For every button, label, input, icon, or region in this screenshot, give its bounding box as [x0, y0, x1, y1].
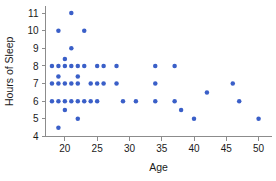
- x-axis-tick-label: 35: [156, 143, 168, 154]
- data-point: [172, 64, 177, 69]
- plot-area: 456789101120253035404550AgeHours of Slee…: [0, 0, 276, 181]
- data-point: [237, 99, 242, 104]
- data-point: [95, 99, 100, 104]
- data-point: [56, 28, 61, 33]
- data-point: [69, 81, 74, 86]
- y-axis-tick-label: 10: [27, 25, 39, 36]
- x-axis-tick-label: 20: [59, 143, 71, 154]
- data-point: [172, 99, 177, 104]
- data-point: [76, 117, 81, 122]
- data-point: [153, 64, 158, 69]
- x-axis-title: Age: [149, 161, 168, 173]
- x-axis-tick-label: 50: [253, 143, 265, 154]
- data-point: [82, 64, 87, 69]
- y-axis-title: Hours of Sleep: [3, 36, 15, 106]
- y-axis-tick-label: 6: [33, 96, 39, 107]
- y-axis-tick-label: 7: [33, 78, 39, 89]
- data-point: [76, 64, 81, 69]
- data-point: [121, 99, 126, 104]
- data-point: [50, 64, 55, 69]
- data-point: [205, 90, 210, 95]
- data-point: [63, 81, 68, 86]
- data-point: [114, 64, 119, 69]
- scatter-chart: 456789101120253035404550AgeHours of Slee…: [0, 0, 276, 181]
- x-axis-tick-label: 45: [221, 143, 233, 154]
- data-point: [63, 64, 68, 69]
- data-point: [153, 99, 158, 104]
- data-point: [192, 117, 197, 122]
- data-point: [56, 81, 61, 86]
- data-point: [56, 64, 61, 69]
- y-axis-tick-label: 11: [28, 8, 39, 19]
- data-point: [134, 99, 139, 104]
- data-point: [88, 99, 93, 104]
- data-point: [82, 28, 87, 33]
- data-point: [101, 64, 106, 69]
- x-axis-tick-label: 40: [188, 143, 200, 154]
- data-point: [88, 81, 93, 86]
- y-axis-tick-label: 9: [33, 43, 39, 54]
- data-point: [50, 81, 55, 86]
- x-axis-tick-label: 25: [92, 143, 104, 154]
- data-point: [69, 11, 74, 16]
- data-point: [63, 99, 68, 104]
- data-point: [69, 64, 74, 69]
- data-point: [82, 99, 87, 104]
- y-axis-tick-label: 4: [33, 131, 39, 142]
- y-axis-tick-label: 5: [33, 113, 39, 124]
- data-point: [69, 46, 74, 51]
- data-point: [101, 81, 106, 86]
- data-point: [56, 125, 61, 129]
- data-point: [114, 81, 119, 86]
- x-axis-tick-label: 30: [124, 143, 136, 154]
- data-point: [50, 99, 55, 104]
- data-point: [63, 108, 68, 113]
- data-point: [69, 99, 74, 104]
- data-point: [256, 117, 261, 122]
- data-point: [56, 74, 61, 79]
- y-axis-tick-label: 8: [33, 61, 39, 72]
- data-point: [231, 81, 236, 86]
- data-point: [76, 99, 81, 104]
- data-point: [76, 81, 81, 86]
- data-point: [179, 108, 184, 113]
- data-point: [95, 64, 100, 69]
- data-point: [95, 81, 100, 86]
- data-point: [76, 74, 81, 79]
- data-point: [56, 99, 61, 104]
- data-point: [153, 81, 158, 86]
- data-point: [63, 57, 68, 62]
